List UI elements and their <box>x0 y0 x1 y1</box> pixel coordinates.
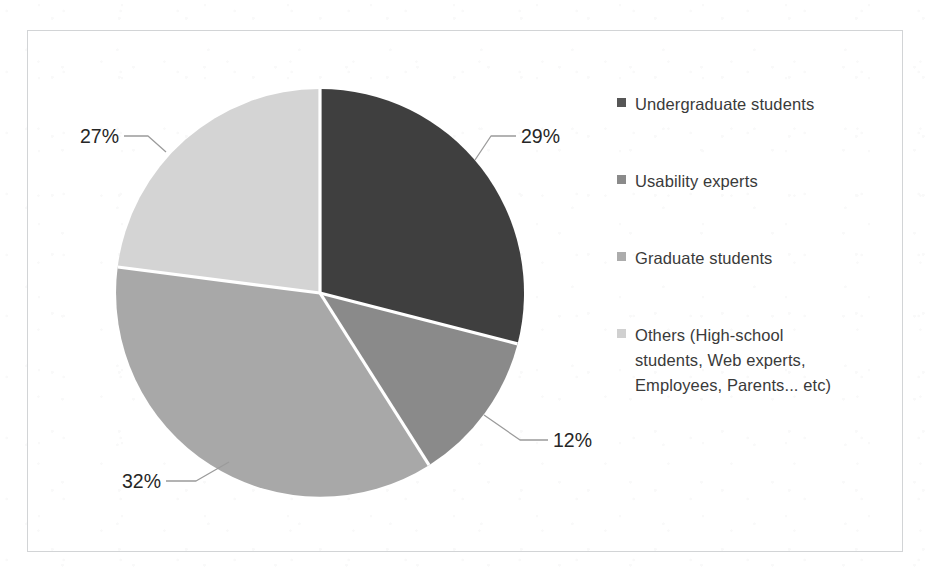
legend-item-graduate-students[interactable]: Graduate students <box>617 246 889 271</box>
legend-swatch-icon <box>617 98 626 107</box>
legend-swatch-icon <box>617 329 626 338</box>
pie-slice-others[interactable] <box>118 89 320 293</box>
legend-swatch-icon <box>617 175 626 184</box>
leader-line-others <box>124 136 166 152</box>
data-label-graduate: 32% <box>122 470 161 492</box>
legend-item-label: Graduate students <box>635 246 772 271</box>
pie-chart-figure: 29% 12% 32% 27% Undergraduate students U… <box>0 0 927 582</box>
legend-item-undergraduate-students[interactable]: Undergraduate students <box>617 92 889 117</box>
data-label-others: 27% <box>80 125 119 147</box>
leader-line-usability <box>484 415 548 440</box>
chart-legend: Undergraduate students Usability experts… <box>617 92 889 398</box>
legend-item-others[interactable]: Others (High-school students, Web expert… <box>617 323 889 398</box>
legend-item-label: Others (High-school students, Web expert… <box>635 323 831 398</box>
leader-line-undergraduate <box>475 136 516 160</box>
data-label-undergraduate: 29% <box>521 125 560 147</box>
legend-swatch-icon <box>617 252 626 261</box>
legend-item-label: Undergraduate students <box>635 92 814 117</box>
legend-item-usability-experts[interactable]: Usability experts <box>617 169 889 194</box>
legend-item-label: Usability experts <box>635 169 758 194</box>
data-label-usability: 12% <box>553 429 592 451</box>
